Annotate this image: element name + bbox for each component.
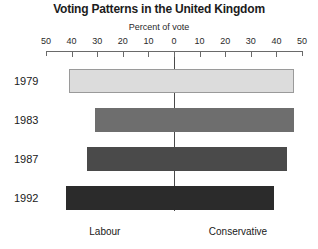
chart-container: Voting Patterns in the United Kingdom Pe… [0,0,318,249]
x-tick-mark [276,51,277,57]
x-tick-mark [72,51,73,57]
x-tick-mark [174,51,175,57]
plot-area: 1979198319871992LabourConservative [0,0,318,249]
bar-row [66,186,273,210]
bar-year-label: 1979 [14,75,58,87]
bar-row [95,108,295,132]
x-tick-mark [97,51,98,57]
bar-year-label: 1992 [14,192,58,204]
bar-year-label: 1983 [14,114,58,126]
bar-year-label: 1987 [14,153,58,165]
bar-row [87,147,287,171]
x-tick-mark [251,51,252,57]
x-tick-mark [123,51,124,57]
x-tick-mark [302,51,303,56]
party-label-labour: Labour [89,226,120,237]
party-label-conservative: Conservative [209,226,267,237]
bar-row [69,69,294,93]
x-tick-mark [46,51,47,56]
x-tick-mark [225,51,226,57]
x-tick-mark [148,51,149,57]
x-tick-mark [200,51,201,57]
